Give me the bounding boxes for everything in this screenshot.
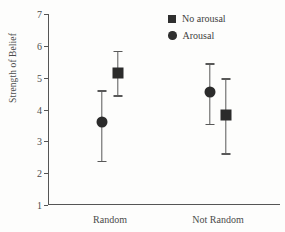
y-axis-tick-label: 6: [37, 40, 42, 51]
x-axis-line: [48, 204, 280, 205]
data-point-square-marker[interactable]: [221, 110, 232, 121]
square-marker-icon: [168, 15, 176, 23]
error-bar-cap: [98, 90, 107, 91]
y-axis-tick-mark: [44, 141, 48, 142]
data-point-circle-marker[interactable]: [97, 117, 108, 128]
data-point-square-marker[interactable]: [113, 67, 124, 78]
chart-legend: No arousalArousal: [168, 10, 226, 44]
error-bar-cap: [114, 95, 123, 96]
y-axis-tick-mark: [44, 14, 48, 15]
error-bar-cap: [98, 161, 107, 162]
y-axis-tick-mark: [44, 110, 48, 111]
y-axis-tick-mark: [44, 78, 48, 79]
circle-marker-icon: [168, 31, 177, 40]
x-axis-category-label: Not Random: [192, 214, 243, 225]
y-axis-tick-mark: [44, 173, 48, 174]
x-axis-category-label: Random: [93, 214, 127, 225]
error-bar-cap: [222, 78, 231, 79]
y-axis-line: [48, 14, 49, 205]
legend-item-label: Arousal: [183, 30, 215, 41]
error-bar-cap: [114, 51, 123, 52]
y-axis-tick-label: 3: [37, 136, 42, 147]
legend-item[interactable]: Arousal: [168, 27, 226, 44]
y-axis-tick-label: 1: [37, 200, 42, 211]
plot-area: 1234567 RandomNot Random: [48, 14, 280, 205]
y-axis-tick-label: 4: [37, 104, 42, 115]
y-axis-title: Strength of Belief: [5, 3, 21, 133]
y-axis-tick-mark: [44, 205, 48, 206]
error-bar-cap: [222, 153, 231, 154]
y-axis-tick-label: 2: [37, 168, 42, 179]
y-axis-tick-label: 7: [37, 9, 42, 20]
error-bar-cap: [206, 63, 215, 64]
data-point-circle-marker[interactable]: [205, 86, 216, 97]
legend-item-label: No arousal: [182, 13, 226, 24]
y-axis-tick-mark: [44, 46, 48, 47]
chart-figure: Strength of Belief 1234567 RandomNot Ran…: [0, 0, 285, 232]
y-axis-tick-label: 5: [37, 72, 42, 83]
error-bar-cap: [206, 124, 215, 125]
legend-item[interactable]: No arousal: [168, 10, 226, 27]
